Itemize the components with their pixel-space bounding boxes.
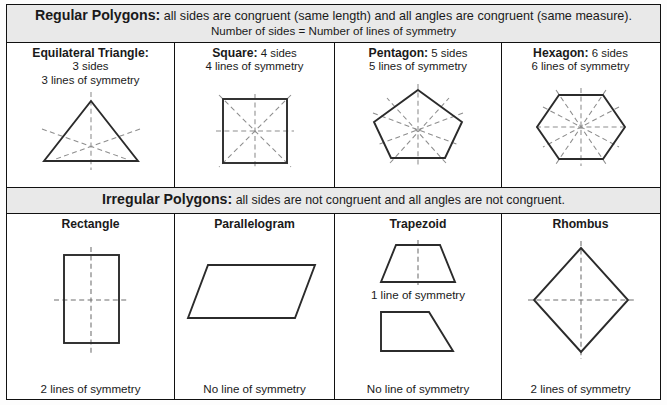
- regular-banner-title: Regular Polygons:: [35, 7, 160, 23]
- irregular-banner-text: all sides are not congruent and all angl…: [232, 193, 565, 207]
- isosceles-trapezoid-figure: [363, 239, 473, 287]
- rhombus-heading: Rhombus: [552, 217, 608, 231]
- polygons-reference-sheet: Regular Polygons: all sides are congruen…: [0, 0, 667, 405]
- square-name: Square:: [212, 46, 257, 60]
- pentagon-sides: 5 sides: [428, 47, 467, 59]
- pentagon-figure: [358, 84, 478, 172]
- trapezoid-name: Trapezoid: [390, 217, 447, 231]
- regular-polygons-row: Equilateral Triangle: 3 sides 3 lines of…: [7, 43, 660, 187]
- column-square: Square: 4 sides 4 lines of symmetry: [175, 43, 335, 187]
- trapezoid-heading: Trapezoid: [390, 217, 447, 231]
- regular-banner-line-2: Number of sides = Number of lines of sym…: [13, 24, 654, 38]
- hexagon-symmetry-lines: [536, 88, 626, 166]
- rhombus-footer: 2 lines of symmetry: [502, 382, 659, 395]
- column-rectangle: Rectangle 2 lines of symmetry: [7, 214, 175, 399]
- equilateral-triangle-sides: 3 sides: [32, 60, 149, 73]
- right-trapezoid-outline: [381, 312, 453, 351]
- rhombus-svg: [516, 241, 646, 361]
- pentagon-symmetry: 5 lines of symmetry: [369, 60, 468, 73]
- irregular-banner-title: Irregular Polygons:: [102, 191, 232, 207]
- pentagon-symmetry-lines: [373, 84, 463, 168]
- equilateral-triangle-heading: Equilateral Triangle: 3 sides 3 lines of…: [32, 46, 149, 87]
- isosceles-trapezoid-svg: [363, 239, 473, 287]
- column-rhombus: Rhombus 2 lines of symmetry: [502, 214, 659, 399]
- parallelogram-name: Parallelogram: [214, 217, 295, 231]
- rectangle-name: Rectangle: [61, 217, 119, 231]
- hexagon-name: Hexagon:: [533, 46, 589, 60]
- parallelogram-outline: [188, 265, 315, 318]
- square-sides: 4 sides: [258, 47, 297, 59]
- rhombus-figure: [516, 241, 646, 361]
- parallelogram-figure: [185, 261, 325, 323]
- column-parallelogram: Parallelogram No line of symmetry: [175, 214, 335, 399]
- regular-banner-line-1: Regular Polygons: all sides are congruen…: [13, 8, 654, 24]
- trapezoid-footer: No line of symmetry: [335, 382, 501, 395]
- pentagon-name: Pentagon:: [369, 46, 429, 60]
- square-symmetry-lines: [216, 94, 294, 168]
- irregular-polygons-row: Rectangle 2 lines of symmetry Par: [7, 214, 660, 399]
- rectangle-figure: [26, 245, 156, 355]
- hexagon-figure: [522, 84, 640, 170]
- right-trapezoid-svg: [363, 307, 473, 355]
- equilateral-triangle-symmetry: 3 lines of symmetry: [32, 74, 149, 87]
- rectangle-svg: [26, 245, 156, 355]
- hexagon-sides: 6 sides: [589, 47, 628, 59]
- square-heading: Square: 4 sides 4 lines of symmetry: [205, 46, 303, 74]
- right-trapezoid-figure: [363, 307, 473, 355]
- regular-banner-text: all sides are congruent (same length) an…: [160, 9, 632, 23]
- column-equilateral-triangle: Equilateral Triangle: 3 sides 3 lines of…: [7, 43, 175, 187]
- rhombus-symmetry-lines: [528, 241, 634, 359]
- parallelogram-footer: No line of symmetry: [175, 382, 334, 395]
- irregular-polygons-banner: Irregular Polygons: all sides are not co…: [7, 187, 660, 214]
- irregular-banner-line-1: Irregular Polygons: all sides are not co…: [13, 192, 654, 208]
- pentagon-outline: [374, 90, 462, 158]
- parallelogram-heading: Parallelogram: [214, 217, 295, 231]
- square-svg: [200, 92, 310, 170]
- hexagon-heading: Hexagon: 6 sides 6 lines of symmetry: [531, 46, 629, 74]
- column-pentagon: Pentagon: 5 sides 5 lines of symmetry: [335, 43, 502, 187]
- pentagon-heading: Pentagon: 5 sides 5 lines of symmetry: [369, 46, 468, 74]
- square-figure: [200, 92, 310, 170]
- rectangle-symmetry-lines: [54, 247, 128, 353]
- rectangle-footer: 2 lines of symmetry: [7, 382, 174, 395]
- column-trapezoid: Trapezoid 1 line of symmetry No line of …: [335, 214, 502, 399]
- rectangle-heading: Rectangle: [61, 217, 119, 231]
- parallelogram-svg: [185, 261, 325, 323]
- polygons-table: Regular Polygons: all sides are congruen…: [6, 4, 661, 400]
- square-symmetry: 4 lines of symmetry: [205, 60, 303, 73]
- rhombus-name: Rhombus: [552, 217, 608, 231]
- regular-polygons-banner: Regular Polygons: all sides are congruen…: [7, 5, 660, 43]
- triangle-symmetry-lines: [42, 92, 140, 170]
- pentagon-svg: [358, 84, 478, 172]
- hexagon-symmetry: 6 lines of symmetry: [531, 60, 629, 73]
- hexagon-svg: [522, 84, 640, 170]
- column-hexagon: Hexagon: 6 sides 6 lines of symmetry: [502, 43, 659, 187]
- equilateral-triangle-figure: [31, 95, 151, 173]
- trapezoid-mid-caption: 1 line of symmetry: [371, 288, 465, 301]
- equilateral-triangle-svg: [31, 95, 151, 173]
- equilateral-triangle-name: Equilateral Triangle:: [32, 46, 149, 60]
